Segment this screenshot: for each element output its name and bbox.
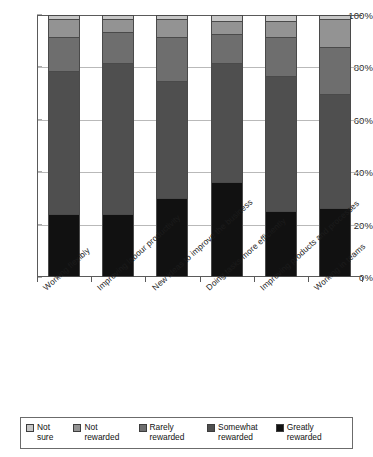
legend-label: Not sure — [37, 422, 66, 442]
legend-swatch-icon — [207, 424, 215, 432]
legend-swatch-icon — [139, 424, 147, 432]
bar-segment[interactable] — [103, 32, 133, 63]
bar-segment[interactable] — [266, 37, 296, 76]
legend-item[interactable]: Not rewarded — [73, 422, 131, 442]
legend-label: Somewhat rewarded — [218, 422, 269, 442]
legend-row: Not sureNot rewardedRarely rewardedSomew… — [26, 422, 347, 442]
bar-segment[interactable] — [103, 19, 133, 32]
legend-swatch-icon — [73, 424, 81, 432]
bar-segment[interactable] — [212, 21, 242, 34]
legend-swatch-icon — [26, 424, 34, 432]
chart-legend: Not sureNot rewardedRarely rewardedSomew… — [20, 417, 353, 449]
legend-label: Not rewarded — [84, 422, 131, 442]
bar-segment[interactable] — [49, 19, 79, 37]
stacked-bar[interactable] — [102, 15, 134, 277]
legend-swatch-icon — [276, 424, 284, 432]
bar-segment[interactable] — [157, 81, 187, 198]
legend-label: Rarely rewarded — [150, 422, 201, 442]
bar-segment[interactable] — [212, 63, 242, 183]
bar-segment[interactable] — [320, 19, 350, 48]
bar-segment[interactable] — [157, 37, 187, 81]
bar-slot — [37, 15, 91, 277]
stacked-bar-chart: 100% 80% 60% 40% 20% 0% Working flexibly… — [0, 0, 373, 457]
bar-segment[interactable] — [212, 34, 242, 63]
stacked-bar[interactable] — [48, 15, 80, 277]
bar-segment[interactable] — [266, 76, 296, 211]
bar-segment[interactable] — [157, 19, 187, 37]
x-axis-labels: Working flexiblyImproving labour product… — [0, 277, 373, 410]
bar-segment[interactable] — [320, 47, 350, 94]
bar-segment[interactable] — [49, 71, 79, 214]
bar-segment[interactable] — [49, 37, 79, 71]
bar-segment[interactable] — [320, 94, 350, 208]
bar-segment[interactable] — [266, 21, 296, 37]
legend-item[interactable]: Somewhat rewarded — [207, 422, 269, 442]
bar-slot — [91, 15, 145, 277]
legend-item[interactable]: Greatly rewarded — [276, 422, 347, 442]
legend-item[interactable]: Not sure — [26, 422, 66, 442]
bar-segment[interactable] — [103, 63, 133, 214]
legend-item[interactable]: Rarely rewarded — [139, 422, 201, 442]
legend-label: Greatly rewarded — [287, 422, 347, 442]
